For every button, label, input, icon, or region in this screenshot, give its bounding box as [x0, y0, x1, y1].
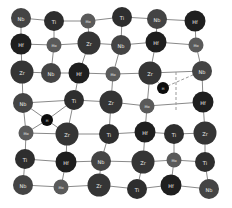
- atom-label: Nb: [98, 159, 105, 165]
- atom-hf: Hf: [11, 34, 32, 55]
- atom-label: Nb: [48, 71, 55, 77]
- atom-hf: Hf: [135, 122, 156, 143]
- atom-label: Nb: [154, 17, 161, 23]
- atom-label: Zr: [140, 160, 146, 166]
- atom-label: Hf: [142, 130, 148, 136]
- atom-label: Hf: [76, 71, 82, 77]
- atom-label: Nb: [206, 187, 213, 193]
- atom-nb: Nb: [199, 179, 219, 199]
- atom-nb: Nb: [111, 35, 131, 55]
- atom-hf: Hf: [69, 63, 90, 84]
- atom-mo: Mo: [140, 99, 155, 114]
- atom-label: Ti: [134, 187, 139, 193]
- atom-nb: Nb: [11, 8, 31, 28]
- atom-label: Zr: [202, 131, 208, 137]
- atom-label: Ti: [51, 19, 56, 25]
- atom-label: Mo: [144, 105, 149, 109]
- atom-ti: Ti: [112, 7, 132, 27]
- atom-nb: Nb: [13, 93, 33, 113]
- atom-label: Ti: [71, 98, 76, 104]
- atom-ti: Ti: [195, 152, 215, 172]
- atom-nb: Nb: [41, 63, 61, 83]
- atom-label: Mo: [193, 44, 198, 48]
- atom-label: Mo: [85, 20, 90, 24]
- atom-mo: Mo: [167, 153, 182, 168]
- atom-nb: Nb: [147, 9, 167, 29]
- atom-zr: Zr: [56, 123, 79, 146]
- atom-zr: Zr: [88, 174, 111, 197]
- atom-nb: Nb: [13, 175, 33, 195]
- atom-nb: Nb: [91, 151, 111, 171]
- atom-zr: Zr: [100, 91, 123, 114]
- atom-zr: Zr: [194, 122, 217, 145]
- atom-label: Mo: [51, 44, 56, 48]
- atom-label: Mo: [171, 159, 176, 163]
- atom-hf: Hf: [56, 152, 77, 173]
- atom-label: Zr: [86, 41, 92, 47]
- atom-label: Ti: [119, 15, 124, 21]
- atom-zr: Zr: [132, 151, 155, 174]
- atom-label: Mo: [110, 73, 115, 77]
- atom-zr: Zr: [11, 61, 34, 84]
- atom-hf: Hf: [146, 32, 167, 53]
- atom-mo: Mo: [54, 180, 69, 195]
- atom-label: Zr: [108, 100, 114, 106]
- atom-label: Nb: [20, 183, 27, 189]
- atom-mo: Mo: [19, 126, 34, 141]
- atom-ti: Ti: [99, 124, 119, 144]
- atom-label: Zr: [64, 132, 70, 138]
- atom-mo: Mo: [81, 14, 96, 29]
- atom-label: Nb: [18, 16, 25, 22]
- atom-mo: Mo: [47, 38, 62, 53]
- atom-label: Hf: [153, 40, 159, 46]
- atom-label: Mo: [23, 132, 28, 136]
- atom-ti: Ti: [15, 149, 35, 169]
- atom-label: Hf: [192, 19, 198, 25]
- atom-label: H: [46, 119, 49, 123]
- atom-label: Ti: [171, 132, 176, 138]
- atom-label: Ti: [106, 132, 111, 138]
- atom-label: Zr: [96, 183, 102, 189]
- atom-label: Hf: [200, 100, 206, 106]
- atom-h: H: [157, 82, 169, 94]
- atom-label: Hf: [18, 42, 24, 48]
- atom-label: Nb: [199, 69, 206, 75]
- atom-ti: Ti: [64, 90, 84, 110]
- atom-label: Hf: [168, 183, 174, 189]
- atom-label: Nb: [118, 43, 125, 49]
- atom-zr: Zr: [78, 32, 101, 55]
- atom-label: Zr: [147, 71, 153, 77]
- atom-label: Ti: [202, 160, 207, 166]
- atom-label: Ti: [22, 157, 27, 163]
- atom-label: Zr: [19, 70, 25, 76]
- atom-label: Hf: [63, 160, 69, 166]
- atom-mo: Mo: [189, 38, 204, 53]
- atom-h: H: [41, 114, 53, 126]
- atom-hf: Hf: [161, 175, 182, 196]
- atom-label: H: [162, 87, 165, 91]
- atom-hf: Hf: [193, 92, 214, 113]
- atom-zr: Zr: [139, 62, 162, 85]
- atom-nb: Nb: [192, 61, 212, 81]
- atom-ti: Ti: [127, 179, 147, 199]
- atom-ti: Ti: [44, 11, 64, 31]
- atom-mo: Mo: [106, 67, 121, 82]
- atom-hf: Hf: [185, 11, 206, 32]
- atom-label: Nb: [20, 101, 27, 107]
- atom-ti: Ti: [164, 124, 184, 144]
- atom-label: Mo: [58, 186, 63, 190]
- atomic-lattice-diagram: NbTiMoTiNbHfHfMoZrNbHfMoZrNbHfMoZrNbNbTi…: [0, 0, 232, 208]
